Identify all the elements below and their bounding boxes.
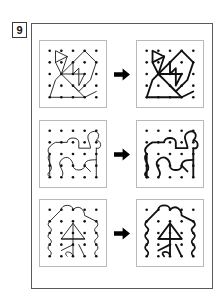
grid-dot <box>95 96 98 99</box>
grid-dot <box>145 208 148 211</box>
exercise-number-badge: 9 <box>12 22 27 38</box>
grid-dot <box>180 176 183 179</box>
grid-dot <box>192 84 195 87</box>
figure-strokes <box>147 51 194 98</box>
figure-strokes <box>48 205 98 256</box>
grid-dot <box>60 255 63 258</box>
grid-dot <box>83 129 86 132</box>
grid-dot <box>60 84 63 87</box>
grid-dot <box>157 61 160 64</box>
right-arrow-icon <box>114 148 130 161</box>
source-panel <box>39 40 107 108</box>
worksheet-frame <box>31 23 213 289</box>
grid-dot <box>95 73 98 76</box>
task-row-1 <box>32 40 214 114</box>
source-panel <box>39 120 107 188</box>
figure-strokes <box>50 51 97 98</box>
row-arrow <box>108 199 136 267</box>
grid-dot <box>72 129 75 132</box>
grid-dot <box>180 141 183 144</box>
figure-canvas <box>40 200 106 266</box>
figure-path <box>158 245 170 251</box>
grid-dot <box>60 49 63 52</box>
figure-path <box>157 157 194 177</box>
figure-path <box>61 245 73 251</box>
arrow-glyph <box>114 68 130 80</box>
grid-dot <box>145 61 148 64</box>
grid-dot <box>60 61 63 64</box>
grid-dot <box>60 129 63 132</box>
grid-dot <box>145 84 148 87</box>
grid-dot <box>180 220 183 223</box>
figure-canvas <box>40 41 106 107</box>
grid-dot <box>48 84 51 87</box>
grid-dot <box>145 129 148 132</box>
arrow-glyph <box>114 148 130 160</box>
grid-dot <box>83 232 86 235</box>
grid-dot <box>157 129 160 132</box>
right-arrow-icon <box>114 227 130 240</box>
figure-path <box>170 62 182 85</box>
grid-dot <box>48 49 51 52</box>
arrow-glyph <box>114 227 130 239</box>
target-panel <box>136 199 204 267</box>
figure-path <box>192 221 195 256</box>
target-panel <box>136 120 204 188</box>
grid-dot <box>169 129 172 132</box>
task-row-3 <box>32 199 214 273</box>
figure-strokes <box>145 131 198 177</box>
grid-dot <box>95 141 98 144</box>
grid-dot <box>157 84 160 87</box>
worksheet-page: 9 <box>0 0 224 306</box>
grid-dot <box>145 49 148 52</box>
grid-dot <box>157 255 160 258</box>
figure-strokes <box>145 205 195 256</box>
grid-dot <box>60 243 63 246</box>
figure-path <box>48 221 51 256</box>
figure-path <box>48 131 101 177</box>
exercise-number-label: 9 <box>16 25 22 36</box>
grid-dot <box>192 73 195 76</box>
figure-path <box>85 166 91 172</box>
grid-dot <box>72 176 75 179</box>
grid-dot <box>169 49 172 52</box>
grid-dot <box>157 243 160 246</box>
grid-dot <box>83 153 86 156</box>
figure-path <box>145 221 148 256</box>
grid-dot <box>95 84 98 87</box>
figure-canvas <box>137 41 203 107</box>
grid-dot <box>169 153 172 156</box>
figure-path <box>60 157 97 177</box>
grid-dot <box>48 208 51 211</box>
grid-dot <box>145 141 148 144</box>
grid-dot <box>180 129 183 132</box>
grid-dot <box>72 153 75 156</box>
source-panel <box>39 199 107 267</box>
grid-dot <box>72 49 75 52</box>
task-row-2 <box>32 120 214 194</box>
grid-dot <box>192 96 195 99</box>
figure-path <box>50 205 97 221</box>
grid-dot <box>180 153 183 156</box>
grid-dot <box>72 220 75 223</box>
figure-path <box>147 91 194 97</box>
right-arrow-icon <box>114 68 130 81</box>
grid-dot <box>180 232 183 235</box>
grid-dot <box>83 243 86 246</box>
grid-dot <box>95 49 98 52</box>
figure-path <box>95 221 98 256</box>
figure-path <box>147 205 194 221</box>
grid-dot <box>180 61 183 64</box>
figure-canvas <box>40 121 106 187</box>
grid-dot <box>48 129 51 132</box>
figure-path <box>79 245 85 257</box>
row-arrow <box>108 40 136 108</box>
grid-dot <box>157 49 160 52</box>
figure-strokes <box>48 131 101 177</box>
figure-canvas <box>137 121 203 187</box>
grid-dot <box>48 73 51 76</box>
grid-dot <box>157 232 160 235</box>
grid-dot <box>192 208 195 211</box>
grid-dot <box>83 61 86 64</box>
grid-dot <box>83 176 86 179</box>
